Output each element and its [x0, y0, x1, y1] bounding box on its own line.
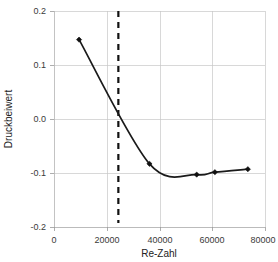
x-axis-title: Re-Zahl — [141, 248, 177, 259]
data-point-marker — [245, 167, 250, 172]
x-tick-label-2: 40000 — [147, 235, 172, 245]
y-axis-tick-marks — [50, 11, 54, 227]
data-series-curve — [79, 40, 248, 178]
chart-plot: 0.2 0.1 0.0 -0.1 -0.2 0 20000 40000 6000… — [0, 0, 278, 262]
x-axis-tick-labels: 0 20000 40000 60000 80000 — [51, 235, 275, 245]
y-tick-label-2: 0.0 — [33, 114, 46, 124]
data-point-marker — [212, 170, 217, 175]
y-tick-label-1: 0.1 — [33, 60, 46, 70]
y-tick-label-4: -0.2 — [30, 222, 46, 232]
y-axis-tick-labels: 0.2 0.1 0.0 -0.1 -0.2 — [30, 6, 46, 232]
x-tick-label-1: 20000 — [94, 235, 119, 245]
gridlines-horizontal — [54, 11, 265, 227]
x-tick-label-4: 80000 — [250, 235, 275, 245]
data-point-markers — [76, 37, 250, 177]
x-tick-label-0: 0 — [51, 235, 56, 245]
y-axis-title: Druckbeiwert — [3, 90, 14, 149]
y-tick-label-0: 0.2 — [33, 6, 46, 16]
x-tick-label-3: 60000 — [199, 235, 224, 245]
x-axis-tick-marks — [54, 227, 265, 231]
y-tick-label-3: -0.1 — [30, 168, 46, 178]
chart-container: 0.2 0.1 0.0 -0.1 -0.2 0 20000 40000 6000… — [0, 0, 278, 262]
